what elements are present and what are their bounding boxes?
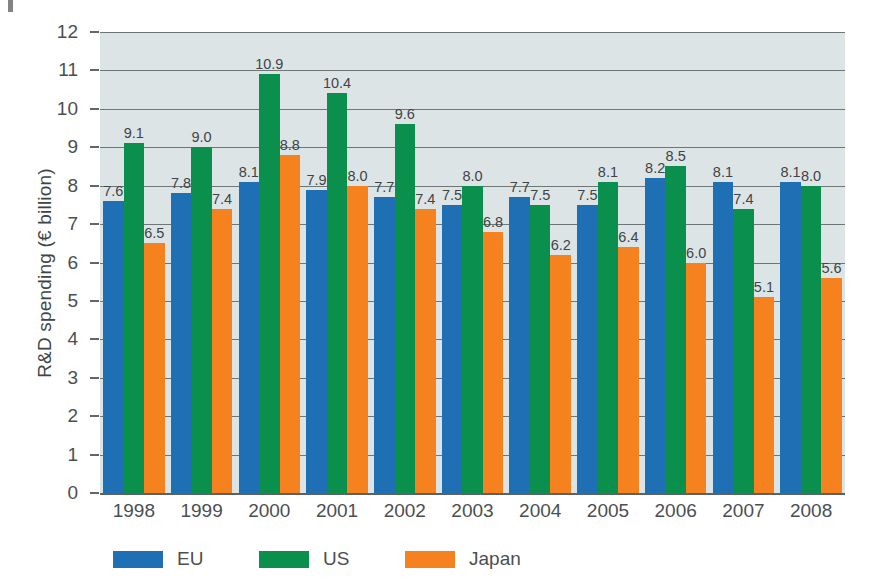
y-tick-mark (90, 262, 99, 264)
bar-us-2003 (462, 186, 483, 493)
legend-item-japan[interactable]: Japan (405, 548, 521, 570)
bar-value-label: 9.0 (185, 129, 219, 145)
bar-value-label: 6.2 (544, 237, 578, 253)
y-tick-label: 6 (34, 252, 78, 274)
bar-eu-1999 (171, 193, 192, 493)
y-tick-label: 8 (34, 175, 78, 197)
scan-artifact (8, 0, 13, 12)
legend-label: US (323, 548, 349, 570)
bar-us-2007 (733, 209, 754, 493)
y-tick-mark (90, 454, 99, 456)
bar-value-label: 8.5 (659, 148, 693, 164)
y-tick-mark (90, 415, 99, 417)
bar-eu-2003 (442, 205, 463, 493)
y-tick-label: 12 (34, 21, 78, 43)
bar-value-label: 8.8 (273, 137, 307, 153)
y-tick-label: 3 (34, 367, 78, 389)
y-tick-label: 7 (34, 213, 78, 235)
y-tick-label: 11 (34, 59, 78, 81)
bar-us-2008 (801, 186, 822, 493)
bar-japan-2007 (754, 297, 775, 493)
y-tick-mark (90, 223, 99, 225)
y-tick-label: 2 (34, 405, 78, 427)
bar-us-2006 (665, 166, 686, 493)
bar-eu-2001 (306, 190, 327, 493)
bar-value-label: 7.5 (523, 187, 557, 203)
legend-item-eu[interactable]: EU (113, 548, 203, 570)
bar-eu-2007 (713, 182, 734, 493)
legend-swatch-us (259, 551, 309, 568)
bar-japan-1998 (144, 243, 165, 493)
bar-value-label: 6.4 (611, 229, 645, 245)
bar-value-label: 7.4 (726, 191, 760, 207)
bar-eu-2006 (645, 178, 666, 493)
bar-value-label: 10.4 (320, 75, 354, 91)
legend-item-us[interactable]: US (259, 548, 349, 570)
bar-value-label: 6.5 (137, 225, 171, 241)
bar-value-label: 6.0 (679, 245, 713, 261)
y-tick-label: 9 (34, 136, 78, 158)
bar-eu-1998 (103, 201, 124, 493)
legend-swatch-eu (113, 551, 163, 568)
bar-eu-2002 (374, 197, 395, 493)
rd-spending-bar-chart: R&D spending (€ billion) 012345678910111… (0, 0, 881, 588)
bar-value-label: 5.1 (747, 279, 781, 295)
bar-value-label: 8.1 (706, 164, 740, 180)
bar-japan-1999 (212, 209, 233, 493)
bar-value-label: 10.9 (252, 56, 286, 72)
bar-japan-2005 (618, 247, 639, 493)
y-tick-label: 4 (34, 328, 78, 350)
x-tick-label: 2008 (771, 500, 851, 522)
y-tick-label: 0 (34, 482, 78, 504)
y-tick-mark (90, 377, 99, 379)
bar-us-1998 (124, 143, 145, 493)
y-tick-mark (90, 108, 99, 110)
bar-value-label: 8.0 (794, 168, 828, 184)
bar-us-2001 (327, 93, 348, 493)
y-tick-label: 5 (34, 290, 78, 312)
bar-japan-2008 (821, 278, 842, 493)
bar-japan-2006 (686, 263, 707, 494)
bar-eu-2005 (577, 205, 598, 493)
legend-swatch-japan (405, 551, 455, 568)
bar-value-label: 9.1 (117, 125, 151, 141)
gridline (100, 32, 845, 33)
bar-value-label: 8.1 (591, 164, 625, 180)
y-tick-mark (90, 69, 99, 71)
bar-eu-2000 (239, 182, 260, 493)
bar-value-label: 8.0 (456, 168, 490, 184)
bar-japan-2002 (415, 209, 436, 493)
plot-area: 7.69.16.57.89.07.48.110.98.87.910.48.07.… (100, 32, 845, 493)
y-tick-label: 10 (34, 98, 78, 120)
y-tick-mark (90, 492, 99, 494)
bar-value-label: 6.8 (476, 214, 510, 230)
bar-japan-2001 (347, 186, 368, 493)
y-tick-mark (90, 146, 99, 148)
bar-value-label: 5.6 (815, 260, 849, 276)
bar-eu-2004 (509, 197, 530, 493)
bar-japan-2003 (483, 232, 504, 493)
gridline (100, 70, 845, 71)
legend-label: EU (177, 548, 203, 570)
bar-us-2002 (395, 124, 416, 493)
bar-japan-2000 (280, 155, 301, 493)
bar-eu-2008 (780, 182, 801, 493)
bar-value-label: 9.6 (388, 106, 422, 122)
legend-label: Japan (469, 548, 521, 570)
bar-japan-2004 (550, 255, 571, 493)
bar-value-label: 7.4 (205, 191, 239, 207)
y-tick-mark (90, 338, 99, 340)
y-tick-label: 1 (34, 444, 78, 466)
gridline (100, 493, 845, 495)
gridline (100, 109, 845, 110)
y-tick-mark (90, 31, 99, 33)
y-tick-mark (90, 300, 99, 302)
